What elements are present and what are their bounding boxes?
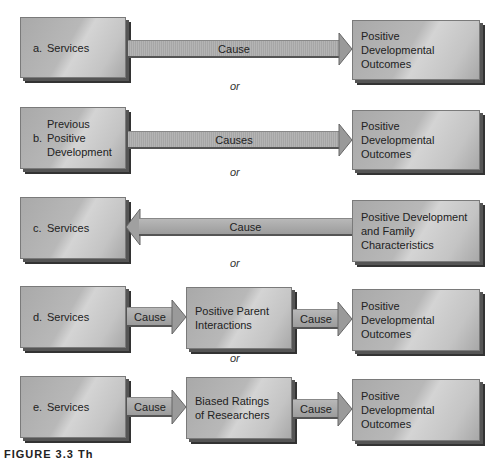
box-c-family-characteristics: Positive Development and Family Characte… [352,200,480,262]
box-e-outcomes: Positive Developmental Outcomes [352,379,480,441]
box-d-parent-interactions: Positive Parent Interactions [186,287,292,349]
box-label: Services [47,41,89,55]
or-label: or [230,352,240,364]
box-e-services: e.Services [20,376,126,438]
box-label: Services [47,310,89,324]
or-label: or [230,80,240,92]
arrow-label: Causes [215,134,252,146]
arrow-head-icon [0,0,1,1]
box-label: Positive Developmental Outcomes [361,29,471,71]
or-label: or [230,166,240,178]
row-letter: c. [33,221,47,235]
figure-caption: FIGURE 3.3 Th [4,448,93,460]
box-d-outcomes: Positive Developmental Outcomes [352,289,480,351]
box-a-outcomes: Positive Developmental Outcomes [352,20,480,80]
arrow-label: Cause [300,403,332,415]
box-label: Positive Parent Interactions [195,304,269,332]
row-letter: e. [33,400,47,414]
box-label: Services [47,400,89,414]
row-letter: a. [33,41,47,55]
box-label: Biased Ratings of Researchers [195,394,270,422]
box-a-services: a.Services [20,17,126,78]
box-c-services: c.Services [20,197,126,259]
arrow-label: Cause [134,311,166,323]
arrow-label: Cause [230,221,262,233]
box-b-previous-development: b.Previous Positive Development [20,107,126,169]
box-e-biased-ratings: Biased Ratings of Researchers [186,377,292,439]
arrow-label: Cause [134,401,166,413]
or-label: or [230,257,240,269]
box-label: Positive Developmental Outcomes [361,299,471,341]
arrow-label: Cause [300,313,332,325]
arrow-label: Cause [218,43,250,55]
box-label: Previous Positive Development [47,117,112,159]
box-label: Positive Development and Family Characte… [361,210,467,252]
box-label: Positive Developmental Outcomes [361,389,471,431]
row-letter: b. [33,131,47,145]
box-d-services: d.Services [20,286,126,348]
row-letter: d. [33,310,47,324]
box-label: Positive Developmental Outcomes [361,119,471,161]
box-b-outcomes: Positive Developmental Outcomes [352,110,480,170]
box-label: Services [47,221,89,235]
